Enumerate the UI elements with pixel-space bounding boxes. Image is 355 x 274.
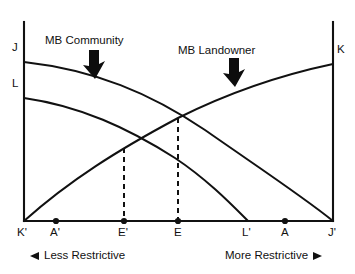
- arrow-left-icon: [30, 252, 39, 260]
- axis-label-l: L: [12, 78, 18, 90]
- axis-label-l-prime: L': [242, 227, 251, 239]
- curve-label-mb-community: MB Community: [45, 35, 124, 47]
- axis-label-k: K: [337, 44, 345, 56]
- curve-label-mb-landowner: MB Landowner: [178, 45, 255, 57]
- caption-less-restrictive: Less Restrictive: [30, 250, 125, 262]
- economics-diagram: J L K K' A' E' E L' A J' MB Community MB…: [0, 0, 355, 274]
- arrow-right-icon: [313, 252, 322, 260]
- axis-label-k-prime: K': [17, 227, 27, 239]
- point-a: [282, 218, 288, 224]
- point-a-prime: [53, 218, 59, 224]
- curve-mb-landowner: [24, 64, 333, 221]
- axis-label-e-prime: E': [118, 227, 128, 239]
- axis-label-e: E: [174, 227, 182, 239]
- axis-label-a-prime: A': [50, 227, 60, 239]
- caption-more-restrictive-label: More Restrictive: [225, 250, 308, 262]
- axis-label-j-prime: J': [328, 227, 336, 239]
- curve-mb-community: [24, 62, 333, 221]
- caption-more-restrictive: More Restrictive: [225, 250, 322, 262]
- caption-less-restrictive-label: Less Restrictive: [44, 250, 125, 262]
- curve-landowner-benefit: [24, 98, 248, 221]
- axis-label-j: J: [12, 42, 18, 54]
- point-e-prime: [121, 218, 127, 224]
- point-e: [175, 218, 181, 224]
- pointer-arrow-landowner: [223, 58, 245, 87]
- axis-label-a: A: [281, 227, 289, 239]
